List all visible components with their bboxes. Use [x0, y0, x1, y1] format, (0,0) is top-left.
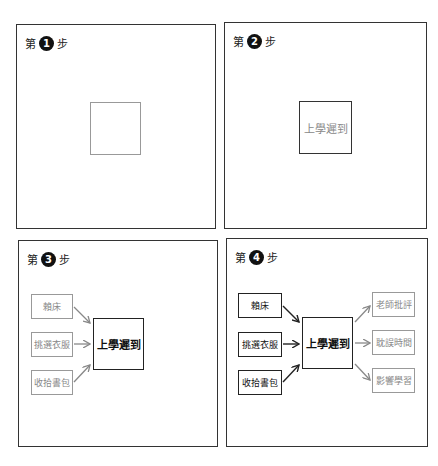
empty-problem-box [90, 102, 141, 155]
problem-box: 上學遲到 [93, 318, 144, 370]
step-prefix: 第 [233, 33, 244, 49]
cause-box: 收拾書包 [238, 370, 282, 395]
step-number-badge: 1 [39, 36, 54, 51]
step-label: 第 3 步 [27, 251, 70, 267]
step-label: 第 2 步 [233, 33, 276, 49]
cause-box: 挑選衣服 [31, 332, 73, 357]
cause-box: 賴床 [31, 294, 73, 319]
cause-box: 賴床 [238, 293, 282, 318]
cause-box: 挑選衣服 [238, 332, 282, 357]
effect-box: 影響學習 [372, 368, 415, 393]
effect-box: 耽誤時間 [372, 330, 415, 355]
step-number-badge: 3 [41, 252, 56, 267]
problem-box: 上學遲到 [299, 101, 352, 154]
step-label: 第 4 步 [235, 249, 278, 265]
step-label: 第 1 步 [25, 35, 68, 51]
step-suffix: 步 [267, 249, 278, 265]
panel-step-3: 第 3 步 賴床 挑選衣服 收拾書包 上學遲到 [18, 240, 218, 447]
panel-step-4: 第 4 步 賴床 挑選衣服 收拾書包 上學遲到 老師批評 耽誤時間 影響學習 [226, 238, 428, 447]
panel-step-2: 第 2 步 上學遲到 [224, 22, 427, 229]
step-prefix: 第 [25, 35, 36, 51]
step-prefix: 第 [235, 249, 246, 265]
step-prefix: 第 [27, 251, 38, 267]
panel-step-1: 第 1 步 [16, 24, 216, 229]
problem-box: 上學遲到 [302, 317, 353, 369]
cause-box: 收拾書包 [31, 370, 73, 395]
step-number-badge: 4 [249, 250, 264, 265]
step-number-badge: 2 [247, 34, 262, 49]
step-suffix: 步 [265, 33, 276, 49]
effect-box: 老師批評 [372, 292, 415, 317]
step-suffix: 步 [59, 251, 70, 267]
step-suffix: 步 [57, 35, 68, 51]
